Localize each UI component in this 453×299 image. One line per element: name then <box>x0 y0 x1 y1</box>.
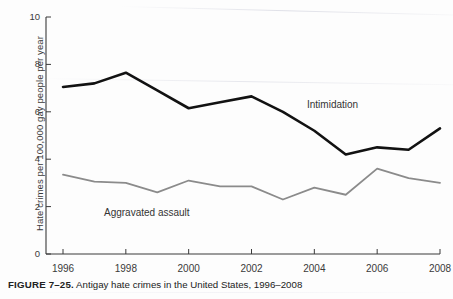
figure-caption-text: Antigay hate crimes in the United States… <box>74 279 302 290</box>
figure-container: Hate crimes per 100,000 gay people per y… <box>0 0 453 299</box>
series-line-aggravated-assault <box>63 169 440 200</box>
line-chart-plot <box>0 0 453 299</box>
figure-caption: FIGURE 7–25. Antigay hate crimes in the … <box>8 279 302 290</box>
axis-tick-marks <box>46 17 440 254</box>
series-label-intimidation: Intimidation <box>307 99 358 110</box>
figure-caption-number: FIGURE 7–25. <box>8 279 74 290</box>
axis-lines <box>46 17 440 254</box>
series-line-intimidation <box>63 73 440 155</box>
series-label-aggravated-assault: Aggravated assault <box>104 207 190 218</box>
data-series-group <box>63 73 440 200</box>
